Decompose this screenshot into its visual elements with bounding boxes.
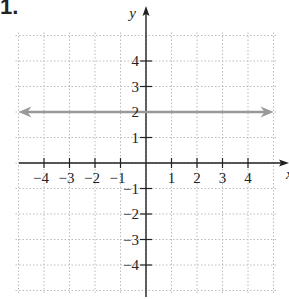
x-tick-label: 4 [244, 170, 252, 186]
y-tick-label: 1 [132, 130, 140, 146]
y-tick-label: −1 [123, 181, 139, 197]
tick-labels: −4−3−2−11234−4−3−2−11234yx [33, 5, 289, 273]
y-tick-label: −4 [123, 257, 139, 273]
coordinate-plane: −4−3−2−11234−4−3−2−11234yx [0, 0, 289, 299]
y-tick-label: −2 [123, 206, 139, 222]
x-tick-label: −3 [59, 170, 75, 186]
x-tick-label: 2 [193, 170, 201, 186]
x-tick-label: −4 [33, 170, 49, 186]
y-axis-label: y [127, 5, 136, 21]
x-axis-label: x [285, 166, 289, 182]
y-tick-label: 3 [132, 79, 140, 95]
y-tick-label: 2 [132, 104, 140, 120]
y-tick-label: −3 [123, 232, 139, 248]
x-tick-label: −2 [84, 170, 100, 186]
x-tick-label: 1 [168, 170, 176, 186]
y-tick-label: 4 [132, 53, 140, 69]
x-tick-label: 3 [219, 170, 227, 186]
